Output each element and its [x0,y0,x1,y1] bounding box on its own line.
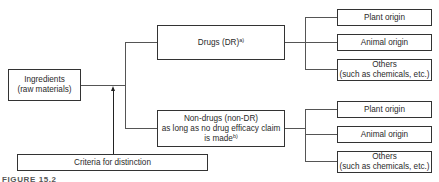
connector-nondrugs-plant [305,109,337,110]
connector-drugs-others [305,69,337,70]
drugs-footnote: a) [239,37,244,43]
connector-nondrugs-out [285,128,305,129]
connector-drugs-animal [305,42,337,43]
connector-root-horizontal [81,85,125,86]
nondrugs-plant-origin-box: Plant origin [337,101,432,118]
drugs-animal-origin-label: Animal origin [361,38,408,48]
nondrugs-animal-origin-label: Animal origin [361,130,408,140]
nondrugs-others-box: Others (such as chemicals, etc.) [337,151,432,173]
connector-nondrugs-animal [305,134,337,135]
connector-nondrugs-others [305,161,337,162]
drugs-animal-origin-box: Animal origin [337,34,432,51]
nondrugs-line1: Non-drugs (non-DR) [162,114,281,124]
nondrugs-others-sublabel: (such as chemicals, etc.) [339,162,429,172]
ingredients-label: Ingredients [17,75,71,85]
connector-drugs-out [285,42,305,43]
ingredients-box: Ingredients (raw materials) [8,69,81,101]
connector-nondrugs-vertical [305,109,306,162]
drugs-plant-origin-box: Plant origin [337,9,432,26]
criteria-box: Criteria for distinction [17,154,208,171]
arrow-up-icon [111,86,115,91]
nondrugs-box: Non-drugs (non-DR) as long as no drug ef… [157,110,285,147]
nondrugs-footnote: b) [233,133,238,139]
criteria-arrow-shaft [113,90,114,154]
connector-main-vertical [125,42,126,129]
drugs-others-box: Others (such as chemicals, etc.) [337,59,432,81]
connector-drugs-plant [305,17,337,18]
nondrugs-line2: as long as no drug efficacy claim [162,124,281,134]
connector-to-nondrugs [125,128,157,129]
drugs-label: Drugs (DR)a) [198,38,244,47]
drugs-box: Drugs (DR)a) [157,25,285,60]
nondrugs-animal-origin-box: Animal origin [337,126,432,143]
connector-drugs-vertical [305,17,306,70]
nondrugs-line3: is madeb) [162,134,281,144]
ingredients-sublabel: (raw materials) [17,85,71,95]
drugs-others-sublabel: (such as chemicals, etc.) [339,70,429,80]
criteria-label: Criteria for distinction [74,158,151,168]
drugs-others-label: Others [339,60,429,70]
drugs-plant-origin-label: Plant origin [364,13,405,23]
nondrugs-others-label: Others [339,152,429,162]
nondrugs-plant-origin-label: Plant origin [364,105,405,115]
connector-to-drugs [125,42,157,43]
figure-caption: FIGURE 15.2 [2,175,57,182]
